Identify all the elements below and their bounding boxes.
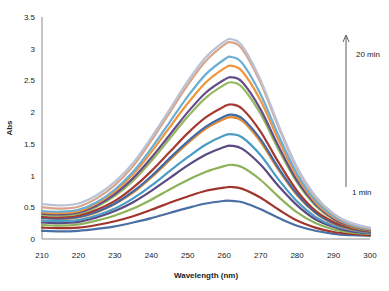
y-tick-labels: 00.511.522.533.5: [24, 13, 36, 244]
label-1-min: 1 min: [352, 188, 372, 197]
y-axis: 00.511.522.533.5: [24, 13, 42, 244]
spectra-series: [42, 39, 370, 236]
x-tick-label: 210: [35, 251, 49, 260]
x-axis: 210220230240250260270280290300: [35, 239, 377, 260]
y-tick-label: 3: [31, 45, 36, 54]
spectrum-line-14: [42, 39, 370, 228]
y-axis-title: Abs: [5, 120, 14, 136]
y-tick-label: 2.5: [24, 76, 36, 85]
x-tick-label: 260: [218, 251, 232, 260]
x-tick-label: 240: [145, 251, 159, 260]
x-tick-label: 300: [363, 251, 377, 260]
y-tick-label: 1.5: [24, 140, 36, 149]
spectrum-line-13: [42, 42, 370, 228]
chart: 00.511.522.533.5 21022023024025026027028…: [0, 0, 389, 291]
time-arrow-annotation: 20 min 1 min: [343, 35, 380, 197]
y-tick-label: 2: [31, 108, 36, 117]
x-tick-label: 280: [290, 251, 304, 260]
x-tick-label: 230: [108, 251, 122, 260]
x-tick-label: 250: [181, 251, 195, 260]
spectrum-line-8: [42, 104, 370, 231]
label-20-min: 20 min: [356, 50, 380, 59]
x-tick-label: 290: [327, 251, 341, 260]
y-tick-label: 0: [31, 235, 36, 244]
y-tick-label: 3.5: [24, 13, 36, 22]
y-tick-label: 1: [31, 172, 36, 181]
y-tick-label: 0.5: [24, 203, 36, 212]
x-tick-label: 270: [254, 251, 268, 260]
x-tick-labels: 210220230240250260270280290300: [35, 251, 377, 260]
x-axis-title: Wavelength (nm): [174, 271, 238, 280]
x-tick-label: 220: [72, 251, 86, 260]
